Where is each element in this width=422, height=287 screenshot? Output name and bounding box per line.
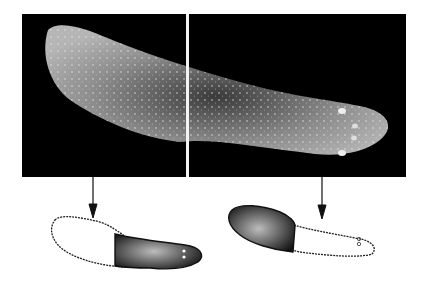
arrow-right (318, 177, 326, 219)
eyespot-icon (338, 108, 346, 114)
regenerate-drawing-right (229, 206, 375, 257)
regenerate-drawing-left (52, 217, 202, 269)
arrow-left (89, 177, 97, 218)
figure-illustration (0, 0, 422, 287)
panel-divider (186, 14, 189, 177)
worm-photo (45, 25, 388, 156)
